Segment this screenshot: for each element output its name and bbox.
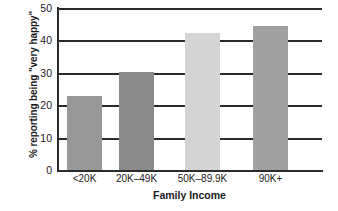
x-tick-label-1: 20K–49K [102, 173, 171, 185]
bar-chart-figure: % reporting being "very happy" 50 40 30 … [0, 0, 338, 211]
x-axis-title: Family Income [57, 189, 322, 201]
y-tick-label-30: 30 [12, 68, 52, 78]
x-axis-tick-labels: <20K 20K–49K 50K–89.9K 90K+ [57, 173, 322, 187]
y-tick-label-40: 40 [12, 35, 52, 45]
x-axis-line [57, 170, 323, 172]
y-axis-tick-labels: 50 40 30 20 10 0 [12, 0, 52, 175]
plot-area [57, 8, 322, 170]
bar-category-2 [185, 33, 220, 170]
bar-category-1 [119, 72, 154, 170]
bar-category-3 [253, 26, 288, 170]
bars-layer [57, 8, 322, 170]
y-tick-label-10: 10 [12, 133, 52, 143]
x-tick-label-2: 50K–89.9K [168, 173, 237, 185]
y-tick-label-20: 20 [12, 100, 52, 110]
y-tick-label-0: 0 [12, 165, 52, 175]
bar-category-0 [67, 96, 102, 170]
y-tick-label-50: 50 [12, 3, 52, 13]
x-tick-label-3: 90K+ [236, 173, 305, 185]
